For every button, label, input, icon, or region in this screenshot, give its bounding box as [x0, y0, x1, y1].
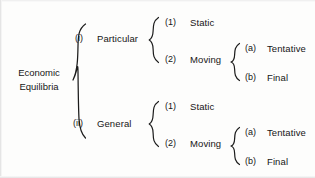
level2-marker-1: (2) [165, 54, 176, 65]
level1-marker-1: (ii) [73, 118, 83, 129]
level2-label-moving-particular: Moving [190, 54, 221, 65]
level3-label-final-general: Final [267, 156, 288, 167]
level3-label-tentative-particular: Tentative [267, 43, 306, 54]
level1-label-general: General [97, 118, 132, 129]
branch-brace-particular [146, 16, 162, 64]
level2-marker-3: (2) [165, 138, 176, 149]
page-edge-left [0, 0, 2, 178]
level1-marker-0: (i) [75, 33, 83, 44]
level2-label-moving-general: Moving [190, 138, 221, 149]
level3-label-tentative-general: Tentative [267, 127, 306, 138]
level2-label-static-particular: Static [190, 17, 214, 28]
level3-marker-1: (b) [245, 72, 256, 83]
diagram-canvas: Economic Equilibria (i) Particular (ii) … [0, 0, 315, 178]
level2-marker-2: (1) [165, 101, 176, 112]
level3-marker-0: (a) [245, 43, 256, 54]
root-label-line1: Economic [8, 66, 70, 80]
leaf-brace-general-moving [228, 126, 243, 166]
root-label: Economic Equilibria [8, 66, 70, 94]
level3-marker-3: (b) [245, 156, 256, 167]
page-edge-top [0, 0, 315, 2]
level2-marker-0: (1) [165, 17, 176, 28]
level2-label-static-general: Static [190, 101, 214, 112]
branch-brace-general [146, 100, 162, 148]
root-label-line2: Equilibria [8, 80, 70, 94]
level3-label-final-particular: Final [267, 72, 288, 83]
leaf-brace-particular-moving [228, 42, 243, 82]
level1-label-particular: Particular [97, 33, 138, 44]
page-edge-bottom [0, 176, 315, 178]
level3-marker-2: (a) [245, 127, 256, 138]
